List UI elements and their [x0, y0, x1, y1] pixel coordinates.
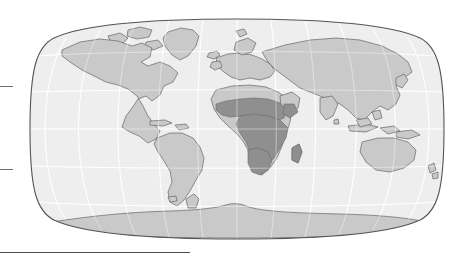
world-map [0, 0, 469, 259]
land-south-georgia [168, 196, 177, 202]
figure-root: World map with highlighted region [0, 0, 469, 259]
left-tick-upper [0, 86, 13, 87]
left-tick-lower [0, 169, 13, 170]
land-sri-lanka [334, 119, 339, 124]
bottom-divider-rule [0, 252, 190, 253]
